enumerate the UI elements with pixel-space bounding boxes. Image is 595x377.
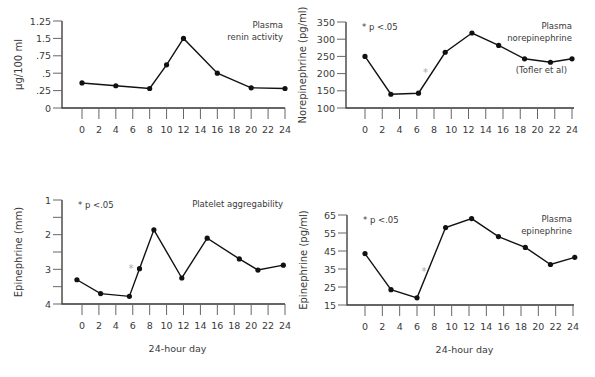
x-tick-label: 6 [414,321,420,332]
data-point [414,295,419,300]
x-tick-label: 6 [130,124,136,135]
data-point [281,263,286,268]
y-tick-label: 55 [324,228,336,239]
y-tick-label: 100 [317,103,335,114]
panel-title: Plasma [541,21,572,31]
source-citation: (Tofler et al) [516,65,567,75]
data-point [237,256,242,261]
x-tick-label: 20 [531,124,543,135]
x-axis-label: 24-hour day [149,343,207,354]
panel-title: Platelet aggregability [192,199,283,209]
data-point [443,50,448,55]
x-tick-label: 18 [228,320,240,331]
y-tick-label: 150 [317,85,335,96]
x-tick-label: 0 [362,124,368,135]
x-tick-label: 22 [550,321,562,332]
x-tick-label: 14 [480,321,492,332]
y-tick-label: 1.5 [36,33,51,44]
x-tick-label: 20 [245,124,257,135]
y-tick-label: .75 [36,50,51,61]
data-point [164,62,169,67]
panel-title: Plasma [252,20,283,30]
data-point [443,225,448,230]
x-tick-label: 12 [177,124,189,135]
x-tick-label: 8 [147,320,153,331]
y-tick-label: 25 [324,282,336,293]
significance-note: * p <.05 [78,200,114,210]
x-tick-label: 0 [79,320,85,331]
data-point [179,275,184,280]
data-point [249,85,254,90]
data-point [362,251,367,256]
x-tick-label: 12 [177,320,189,331]
y-tick-label: 35 [324,264,336,275]
x-tick-label: 20 [245,320,257,331]
x-tick-label: 4 [113,320,119,331]
x-tick-label: 24 [567,321,579,332]
x-tick-label: 2 [379,124,385,135]
chart-canvas: 0.25.5.751.51.25024681012141618202224µg/… [0,0,595,377]
data-point [79,80,84,85]
x-tick-label: 4 [113,124,119,135]
x-tick-label: 14 [194,124,206,135]
panel-title: renin activity [227,32,283,42]
data-point [215,71,220,76]
significance-asterisk: * [423,67,428,78]
x-tick-label: 12 [463,321,475,332]
data-point [113,83,118,88]
panel-platelet-aggregability: 1234024681012141618202224Epinephrine (mm… [13,195,291,355]
panel-title: norepinephrine [507,33,572,43]
x-tick-label: 4 [396,124,402,135]
data-point [388,287,393,292]
significance-asterisk: * [129,263,134,274]
x-tick-label: 2 [96,320,102,331]
y-tick-label: 0 [45,103,51,114]
y-tick-label: 2 [45,229,51,240]
x-tick-label: 24 [279,320,291,331]
data-point [388,92,393,97]
x-tick-label: 8 [431,124,437,135]
panel-plasma-epinephrine: 152535455565024681012141618202224Epineph… [298,210,579,356]
y-tick-label: 4 [45,299,51,310]
x-tick-label: 16 [497,124,509,135]
x-tick-label: 6 [414,124,420,135]
data-point [255,267,260,272]
x-tick-label: 6 [130,320,136,331]
x-tick-label: 18 [228,124,240,135]
panel-norepinephrine: 100150200250300350024681012141618202224N… [297,6,578,135]
x-tick-label: 22 [549,124,561,135]
data-point [151,227,156,232]
panel-renin: 0.25.5.751.51.25024681012141618202224µg/… [13,16,291,136]
data-point [469,30,474,35]
x-tick-label: 8 [147,124,153,135]
x-tick-label: 4 [397,321,403,332]
significance-note: * p <.05 [363,215,399,225]
data-point [181,36,186,41]
x-tick-label: 16 [211,320,223,331]
x-tick-label: 20 [532,321,544,332]
data-point [416,91,421,96]
y-axis-label: Epinephrine (pg/ml) [298,210,309,310]
x-tick-label: 0 [362,321,368,332]
y-tick-label: 350 [317,17,335,28]
data-point [522,56,527,61]
x-tick-label: 16 [211,124,223,135]
panel-title: epinephrine [521,226,572,236]
x-tick-label: 24 [566,124,578,135]
data-line [82,38,285,88]
x-tick-label: 18 [515,321,527,332]
data-point [496,234,501,239]
data-point [147,86,152,91]
x-tick-label: 18 [514,124,526,135]
x-tick-label: 22 [262,320,274,331]
data-point [74,277,79,282]
x-tick-label: 24 [279,124,291,135]
x-tick-label: 22 [262,124,274,135]
significance-note: * p <.05 [362,22,398,32]
data-point [572,255,577,260]
data-point [98,291,103,296]
x-tick-label: 10 [445,124,457,135]
data-point [496,43,501,48]
y-tick-label: 3 [45,264,51,275]
x-axis-label: 24-hour day [436,344,494,355]
